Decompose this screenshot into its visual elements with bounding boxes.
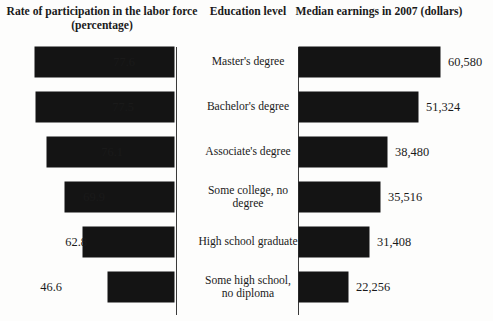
chart-row: 62.8High school graduate31,408 xyxy=(0,227,493,257)
earnings-value-label: 38,480 xyxy=(395,145,429,160)
earnings-bar xyxy=(299,182,380,212)
participation-bar xyxy=(35,47,174,77)
earnings-value-label: 31,408 xyxy=(377,235,411,250)
earnings-bar-track xyxy=(299,47,440,77)
participation-cell: 77.6 xyxy=(0,47,176,77)
chart-row: 77.6Master's degree60,580 xyxy=(0,47,493,77)
column-header-education-level: Education level xyxy=(200,5,296,19)
education-earnings-chart: Rate of participation in the labor force… xyxy=(0,0,493,321)
education-level-label: Some high school, no diploma xyxy=(198,272,298,302)
education-level-label: Associate's degree xyxy=(198,137,298,167)
earnings-value-label: 35,516 xyxy=(388,190,422,205)
participation-cell: 62.8 xyxy=(0,227,176,257)
participation-value-label: 77.6 xyxy=(113,55,135,70)
column-header-participation: Rate of participation in the labor force… xyxy=(6,5,198,32)
earnings-bar-track xyxy=(299,92,418,122)
chart-row: 46.6Some high school, no diploma22,256 xyxy=(0,272,493,302)
earnings-cell: 31,408 xyxy=(299,227,493,257)
participation-value-label: 77.5 xyxy=(112,100,134,115)
earnings-bar xyxy=(299,137,387,167)
chart-row: 77.5Bachelor's degree51,324 xyxy=(0,92,493,122)
participation-bar-track xyxy=(0,92,174,122)
earnings-bar xyxy=(299,272,348,302)
participation-bar xyxy=(108,272,174,302)
participation-bar-track xyxy=(0,227,174,257)
participation-cell: 76.1 xyxy=(0,137,176,167)
participation-cell: 69.9 xyxy=(0,182,176,212)
earnings-bar-track xyxy=(299,182,380,212)
participation-bar-track xyxy=(0,272,174,302)
participation-bar-track xyxy=(0,137,174,167)
earnings-value-label: 51,324 xyxy=(426,100,460,115)
participation-value-label: 76.1 xyxy=(101,145,123,160)
earnings-cell: 35,516 xyxy=(299,182,493,212)
chart-row: 69.9Some college, no degree35,516 xyxy=(0,182,493,212)
earnings-bar xyxy=(299,47,440,77)
participation-bar xyxy=(36,92,174,122)
education-level-label: Master's degree xyxy=(198,47,298,77)
chart-row: 76.1Associate's degree38,480 xyxy=(0,137,493,167)
participation-value-label: 46.6 xyxy=(40,280,62,295)
participation-cell: 77.5 xyxy=(0,92,176,122)
education-level-label: Some college, no degree xyxy=(198,182,298,212)
earnings-value-label: 22,256 xyxy=(356,280,390,295)
earnings-bar-track xyxy=(299,227,369,257)
education-level-label: High school graduate xyxy=(198,227,298,257)
participation-cell: 46.6 xyxy=(0,272,176,302)
earnings-bar-track xyxy=(299,137,387,167)
earnings-cell: 22,256 xyxy=(299,272,493,302)
earnings-cell: 51,324 xyxy=(299,92,493,122)
earnings-cell: 60,580 xyxy=(299,47,493,77)
participation-value-label: 62.8 xyxy=(65,235,87,250)
education-level-label: Bachelor's degree xyxy=(198,92,298,122)
column-header-earnings: Median earnings in 2007 (dollars) xyxy=(290,5,468,19)
earnings-bar xyxy=(299,92,418,122)
earnings-bar xyxy=(299,227,369,257)
earnings-value-label: 60,580 xyxy=(448,55,482,70)
earnings-bar-track xyxy=(299,272,348,302)
earnings-cell: 38,480 xyxy=(299,137,493,167)
participation-bar xyxy=(83,227,174,257)
participation-bar-track xyxy=(0,47,174,77)
participation-value-label: 69.9 xyxy=(83,190,105,205)
participation-bar xyxy=(65,182,174,212)
